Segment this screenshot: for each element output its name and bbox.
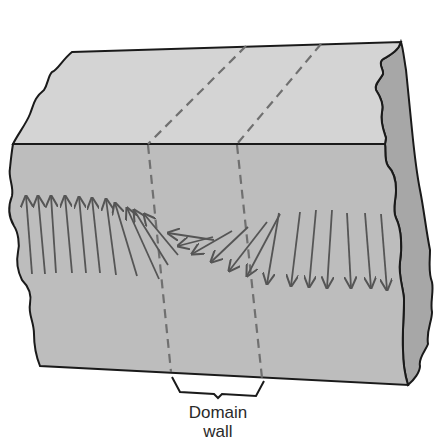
domain-wall-diagram — [0, 0, 434, 443]
block-top-face — [13, 42, 401, 144]
block-front-face — [9, 144, 408, 385]
label-line-1: Domain — [158, 403, 278, 422]
domain-wall-label: Domain wall — [158, 403, 278, 441]
label-line-2: wall — [158, 422, 278, 441]
domain-wall-brace — [172, 377, 264, 398]
